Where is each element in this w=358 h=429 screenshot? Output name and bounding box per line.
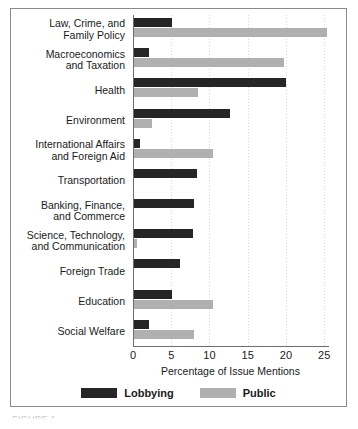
bar-public xyxy=(134,28,327,37)
category-label: Foreign Trade xyxy=(9,266,125,278)
category-label: Environment xyxy=(9,115,125,127)
bar-group xyxy=(133,226,328,256)
bar-lobbying xyxy=(134,320,149,329)
figure-caption: FIGURE 1. xyxy=(12,414,59,424)
bar-public xyxy=(134,88,198,97)
bar-group xyxy=(133,317,328,347)
category-label: Social Welfare xyxy=(9,326,125,338)
legend-item-public: Public xyxy=(200,387,276,399)
bar-group xyxy=(133,256,328,286)
x-tick-20: 20 xyxy=(280,349,292,361)
category-label: Banking, Finance, and Commerce xyxy=(9,200,125,223)
legend-label-public: Public xyxy=(243,387,276,399)
bar-public xyxy=(134,330,194,339)
category-label: Science, Technology, and Communication xyxy=(9,230,125,253)
x-tick-15: 15 xyxy=(242,349,254,361)
figure-frame: Law, Crime, and Family PolicyMacroeconom… xyxy=(10,8,347,407)
legend-swatch-public xyxy=(200,388,236,398)
bar-public xyxy=(134,119,152,128)
category-label: Macroeconomics and Taxation xyxy=(9,49,125,72)
bar-public xyxy=(134,300,213,309)
category-label: Law, Crime, and Family Policy xyxy=(9,18,125,41)
bar-public xyxy=(134,58,284,67)
bar-lobbying xyxy=(134,290,172,299)
x-tick-5: 5 xyxy=(168,349,174,361)
plot-area xyxy=(133,15,328,347)
x-axis-label: Percentage of Issue Mentions xyxy=(133,365,328,377)
category-label: Transportation xyxy=(9,175,125,187)
category-label: International Affairs and Foreign Aid xyxy=(9,139,125,162)
bar-lobbying xyxy=(134,18,172,27)
bar-lobbying xyxy=(134,78,286,87)
bar-lobbying xyxy=(134,199,194,208)
bar-lobbying xyxy=(134,229,193,238)
bar-public xyxy=(134,149,213,158)
category-label: Education xyxy=(9,296,125,308)
bar-group xyxy=(133,75,328,105)
bar-lobbying xyxy=(134,139,140,148)
bar-group xyxy=(133,136,328,166)
bar-group xyxy=(133,45,328,75)
bar-lobbying xyxy=(134,48,149,57)
category-label: Health xyxy=(9,85,125,97)
bar-public xyxy=(134,239,137,248)
bar-group xyxy=(133,106,328,136)
bar-lobbying xyxy=(134,169,197,178)
bar-group xyxy=(133,196,328,226)
bar-lobbying xyxy=(134,259,180,268)
legend-item-lobbying: Lobbying xyxy=(81,387,174,399)
bar-group xyxy=(133,166,328,196)
bar-lobbying xyxy=(134,109,230,118)
category-axis: Law, Crime, and Family PolicyMacroeconom… xyxy=(11,15,129,347)
x-tick-10: 10 xyxy=(203,349,215,361)
legend-label-lobbying: Lobbying xyxy=(124,387,174,399)
bar-group xyxy=(133,15,328,45)
x-tick-25: 25 xyxy=(318,349,330,361)
bar-group xyxy=(133,287,328,317)
chart-legend: Lobbying Public xyxy=(11,387,346,399)
x-tick-0: 0 xyxy=(130,349,136,361)
legend-swatch-lobbying xyxy=(81,388,117,398)
